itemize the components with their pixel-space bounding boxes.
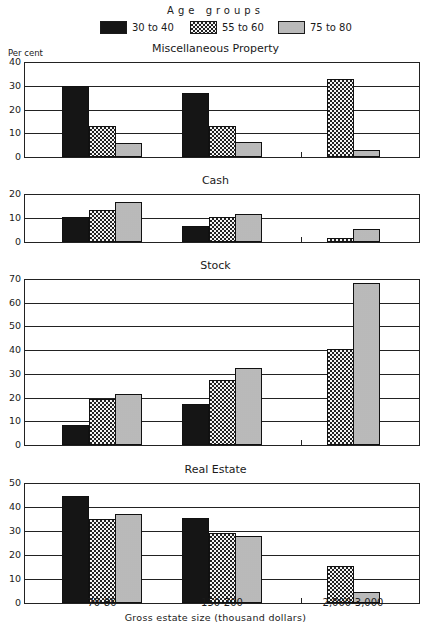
bar-75-to-80 (115, 514, 142, 603)
legend-swatch-crosshatch (190, 21, 217, 34)
bar-75-to-80 (115, 143, 142, 157)
bar-55-to-60 (209, 217, 236, 242)
bar-75-to-80 (235, 142, 262, 157)
y-tick-label: 10 (3, 415, 21, 426)
bar-30-to-40 (182, 226, 209, 242)
y-tick-label: 0 (3, 439, 21, 450)
y-tick-label: 20 (3, 392, 21, 403)
y-tick-label: 30 (3, 80, 21, 91)
panel-plot-area (24, 279, 420, 446)
legend-label: 55 to 60 (222, 22, 264, 33)
y-tick-label: 30 (3, 525, 21, 536)
legend-swatch-dotted (278, 21, 305, 34)
legend-label: 75 to 80 (310, 22, 352, 33)
panel-plot-area (24, 483, 420, 604)
legend-item-55-60: 55 to 60 (190, 20, 264, 35)
y-tick-label: 70 (3, 273, 21, 284)
x-tick-mark (301, 237, 302, 242)
bar-55-to-60 (209, 126, 236, 157)
y-tick-label: 50 (3, 477, 21, 488)
legend-item-30-40: 30 to 40 (100, 20, 174, 35)
bar-30-to-40 (62, 496, 89, 603)
bar-75-to-80 (353, 229, 380, 242)
bar-75-to-80 (353, 283, 380, 445)
panel-title: Stock (0, 259, 431, 272)
y-tick-label: 30 (3, 368, 21, 379)
bar-55-to-60 (327, 349, 354, 445)
bar-75-to-80 (115, 394, 142, 445)
panel-plot-area (24, 194, 420, 243)
legend-title: Age groups (0, 5, 431, 16)
legend-swatch-black (100, 21, 127, 34)
y-tick-label: 10 (3, 127, 21, 138)
bar-55-to-60 (89, 399, 116, 445)
bar-30-to-40 (62, 217, 89, 242)
y-tick-label: 50 (3, 320, 21, 331)
bar-75-to-80 (235, 536, 262, 603)
y-tick-label: 0 (3, 151, 21, 162)
bar-55-to-60 (89, 126, 116, 157)
x-tick-label: 2,000-3,000 (293, 597, 413, 608)
bar-55-to-60 (327, 79, 354, 157)
x-axis-title: Gross estate size (thousand dollars) (0, 612, 431, 623)
x-tick-label: 150-200 (162, 597, 282, 608)
x-tick-mark (301, 152, 302, 157)
panel-title: Real Estate (0, 463, 431, 476)
bar-75-to-80 (353, 150, 380, 157)
y-tick-label: 40 (3, 501, 21, 512)
legend-item-75-80: 75 to 80 (278, 20, 352, 35)
bar-75-to-80 (235, 368, 262, 445)
y-tick-label: 10 (3, 212, 21, 223)
y-tick-label: 0 (3, 236, 21, 247)
panel-title: Miscellaneous Property (0, 42, 431, 55)
bar-30-to-40 (182, 93, 209, 157)
x-tick-label: 70-80 (42, 597, 162, 608)
panel-title: Cash (0, 174, 431, 187)
bar-55-to-60 (89, 519, 116, 603)
panel-plot-area (24, 62, 420, 158)
bar-30-to-40 (62, 425, 89, 445)
y-tick-label: 20 (3, 549, 21, 560)
y-tick-label: 0 (3, 597, 21, 608)
y-tick-label: 20 (3, 104, 21, 115)
bar-55-to-60 (209, 533, 236, 603)
x-tick-mark (301, 440, 302, 445)
bar-75-to-80 (235, 214, 262, 242)
bar-75-to-80 (115, 202, 142, 242)
bar-30-to-40 (182, 404, 209, 446)
y-tick-label: 20 (3, 188, 21, 199)
bar-55-to-60 (209, 380, 236, 445)
y-tick-label: 60 (3, 297, 21, 308)
bar-30-to-40 (62, 86, 89, 157)
y-tick-label: 10 (3, 573, 21, 584)
bar-30-to-40 (182, 518, 209, 603)
y-tick-label: 40 (3, 56, 21, 67)
bar-55-to-60 (327, 238, 354, 242)
legend-label: 30 to 40 (132, 22, 174, 33)
y-tick-label: 40 (3, 344, 21, 355)
bar-55-to-60 (89, 210, 116, 242)
